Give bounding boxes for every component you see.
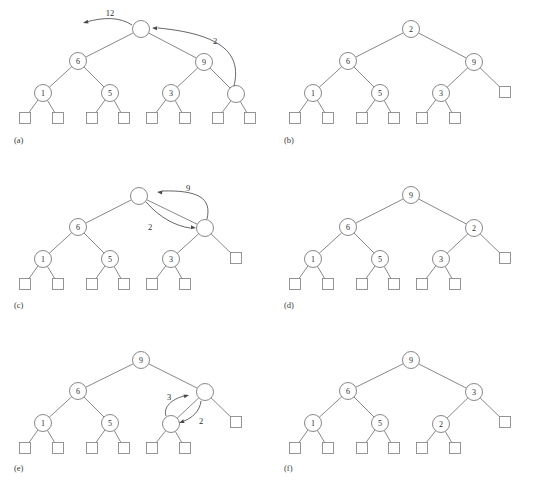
- tree-node-1: 1: [35, 251, 52, 268]
- leaf-node-square: [20, 279, 31, 290]
- tree-edge: [445, 431, 452, 443]
- node-value-label: 6: [346, 387, 350, 396]
- tree-edge: [155, 431, 165, 444]
- tree-edge: [114, 266, 121, 279]
- tree-node-empty: [228, 86, 245, 103]
- leaf-node-square: [417, 279, 428, 290]
- tree-edge: [114, 430, 121, 443]
- node-value-label: 3: [472, 388, 476, 397]
- tree-edge: [221, 101, 231, 114]
- tree-node-5: 5: [102, 251, 119, 268]
- tree-node-6: 6: [70, 219, 87, 236]
- leaf-node-square: [119, 443, 130, 454]
- tree-edge: [356, 364, 404, 388]
- tree-edge: [175, 431, 182, 443]
- tree-edge: [95, 266, 105, 280]
- tree-edge: [298, 100, 308, 114]
- leaf-node-square: [147, 443, 158, 454]
- tree-node-empty: [131, 188, 148, 205]
- panel-b: 269153(b): [284, 21, 511, 146]
- leaf-node-square: [323, 279, 334, 290]
- tree-edge: [419, 33, 467, 58]
- arrow-curve: [162, 191, 208, 219]
- tree-edge: [155, 100, 166, 114]
- tree-node-5: 5: [102, 85, 119, 102]
- tree-edge: [28, 266, 38, 280]
- tree-node-2: 2: [403, 21, 420, 38]
- node-circle: [133, 21, 150, 38]
- tree-edge: [354, 67, 374, 87]
- leaf-node-square: [389, 443, 400, 454]
- tree-edge: [319, 233, 341, 254]
- tree-edge: [114, 100, 121, 113]
- tree-edge: [480, 68, 501, 88]
- tree-edge: [149, 33, 197, 58]
- panel-d-edges: [298, 199, 501, 280]
- tree-edge: [354, 397, 374, 417]
- tree-node-1: 1: [305, 415, 322, 432]
- tree-edge: [317, 100, 325, 113]
- tree-edge: [354, 233, 374, 253]
- leaf-node-square: [20, 113, 31, 124]
- tree-edge: [84, 397, 104, 417]
- tree-edge: [419, 364, 467, 388]
- arrow-value-label: 2: [148, 222, 152, 232]
- tree-edge: [384, 430, 391, 443]
- tree-node-5: 5: [102, 415, 119, 432]
- tree-edge: [384, 266, 391, 279]
- node-circle: [197, 220, 214, 237]
- tree-node-9: 9: [466, 54, 483, 71]
- leaf-node-square: [290, 279, 301, 290]
- panel-c-edges: [28, 200, 232, 280]
- leaf-node-square: [417, 113, 428, 124]
- tree-edge: [445, 100, 452, 113]
- leaf-node-square: [500, 417, 511, 428]
- leaf-node-square: [147, 279, 158, 290]
- leaf-node-square: [417, 443, 428, 454]
- leaf-node-square: [87, 443, 98, 454]
- leaf-node-square: [231, 417, 242, 428]
- leaf-node-square: [180, 443, 191, 454]
- leaf-node-square: [53, 443, 64, 454]
- leaf-node-square: [290, 443, 301, 454]
- tree-node-9: 9: [403, 187, 420, 204]
- tree-edge: [49, 233, 71, 254]
- node-value-label: 6: [346, 223, 350, 232]
- leaf-node-square: [500, 87, 511, 98]
- tree-edge: [419, 199, 467, 224]
- node-value-label: 9: [472, 58, 476, 67]
- tree-node-empty: [133, 21, 150, 38]
- tree-edge: [210, 68, 230, 88]
- tree-node-9: 9: [133, 352, 150, 369]
- tree-edge: [147, 200, 198, 225]
- leaf-node-square: [87, 113, 98, 124]
- node-circle: [197, 384, 214, 401]
- tree-edge: [95, 100, 105, 114]
- tree-edge: [84, 67, 104, 87]
- tree-edge: [365, 100, 375, 114]
- node-value-label: 5: [108, 255, 112, 264]
- arrow-head: [83, 20, 89, 24]
- tree-node-2: 2: [466, 220, 483, 237]
- panel-caption-d: (d): [284, 300, 294, 310]
- node-value-label: 1: [41, 255, 45, 264]
- tree-edge: [177, 398, 199, 418]
- tree-edge: [177, 234, 198, 254]
- arrow-curve: [86, 19, 132, 25]
- leaf-node-square: [357, 113, 368, 124]
- arrow-up-9: 9: [157, 183, 208, 219]
- tree-edge: [319, 67, 341, 88]
- tree-edge: [95, 430, 105, 444]
- tree-node-2: 2: [433, 416, 450, 433]
- leaf-node-square: [290, 113, 301, 124]
- figure-panels-group: 69153122(a)269153(b)615392(c)962153(d)96…: [14, 8, 511, 473]
- panel-b-edges: [298, 33, 501, 114]
- panel-e: 961532(e): [14, 352, 242, 474]
- tree-edge: [425, 431, 435, 444]
- node-value-label: 5: [108, 89, 112, 98]
- arrow-head: [152, 26, 157, 30]
- tree-edge: [425, 100, 436, 114]
- tree-edge: [47, 266, 55, 279]
- node-circle: [163, 416, 180, 433]
- tree-figure-svg: 69153122(a)269153(b)615392(c)962153(d)96…: [0, 0, 535, 490]
